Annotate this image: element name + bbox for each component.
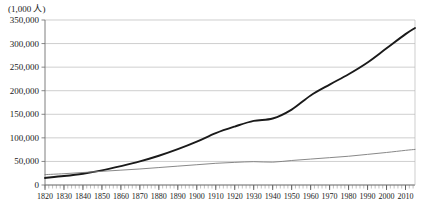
x-axis-tick-label: 1840 — [75, 192, 91, 201]
y-axis-tick-label: 300,000 — [0, 39, 39, 49]
x-axis-tick-label: 1850 — [94, 192, 110, 201]
x-axis-tick-label: 2010 — [398, 192, 414, 201]
y-axis-tick-label: 250,000 — [0, 62, 39, 72]
x-axis-tick-label: 1900 — [189, 192, 205, 201]
y-axis-tick-label: 100,000 — [0, 133, 39, 143]
y-axis-tick-label: 150,000 — [0, 109, 39, 119]
y-axis-ticks — [42, 20, 46, 185]
x-axis-tick-label: 1910 — [208, 192, 224, 201]
gridlines — [45, 20, 415, 185]
plot-frame — [45, 20, 415, 185]
x-axis-tick-label: 1870 — [132, 192, 148, 201]
x-axis-tick-label: 1890 — [170, 192, 186, 201]
x-axis-tick-label: 1860 — [113, 192, 129, 201]
x-axis-tick-label: 1820 — [37, 192, 53, 201]
x-axis-minor-ticks — [45, 185, 413, 189]
data-series-layer — [45, 28, 415, 178]
x-axis-tick-label: 1920 — [227, 192, 243, 201]
x-axis-major-ticks — [45, 185, 406, 190]
x-axis-tick-label: 1990 — [360, 192, 376, 201]
x-axis-tick-label: 1930 — [246, 192, 262, 201]
x-axis-tick-label: 1970 — [322, 192, 338, 201]
plot-area — [0, 0, 429, 205]
x-axis-tick-label: 1980 — [341, 192, 357, 201]
y-axis-tick-label: 0 — [0, 180, 39, 190]
y-axis-tick-label: 350,000 — [0, 15, 39, 25]
x-axis-tick-label: 1830 — [56, 192, 72, 201]
x-axis-tick-label: 1940 — [265, 192, 281, 201]
x-axis-tick-label: 2000 — [379, 192, 395, 201]
y-axis-tick-label: 50,000 — [0, 156, 39, 166]
population-line-chart: (1,000 人) 050,000100,000150,000200,00025… — [0, 0, 429, 205]
x-axis-tick-label: 1950 — [284, 192, 300, 201]
y-axis-tick-label: 200,000 — [0, 86, 39, 96]
x-axis-tick-label: 1880 — [151, 192, 167, 201]
x-axis-tick-label: 1960 — [303, 192, 319, 201]
